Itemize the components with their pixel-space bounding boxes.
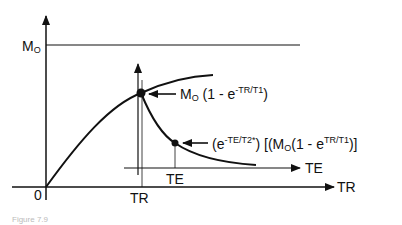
recovery-equation: MO (1 - e-TR/T1) — [180, 85, 268, 103]
origin-label: 0 — [34, 187, 42, 203]
m0-axis-label: MO — [22, 38, 41, 55]
te-axis-label: TE — [305, 160, 323, 176]
recovery-point — [137, 89, 146, 98]
figure-caption: Figure 7.9 — [12, 215, 49, 224]
tr-axis-label: TR — [337, 179, 356, 195]
te-tick-label: TE — [166, 171, 184, 187]
diagram-canvas: MO 0 TR TR TE TE MO (1 - e-TR/T1) (e-TE/… — [0, 0, 402, 225]
decay-equation: (e-TE/T2*) [(MO(1 - eTR/T1)] — [212, 135, 358, 153]
tr-tick-label: TR — [130, 190, 149, 206]
decay-point — [172, 140, 179, 147]
decay-curve — [141, 93, 256, 165]
